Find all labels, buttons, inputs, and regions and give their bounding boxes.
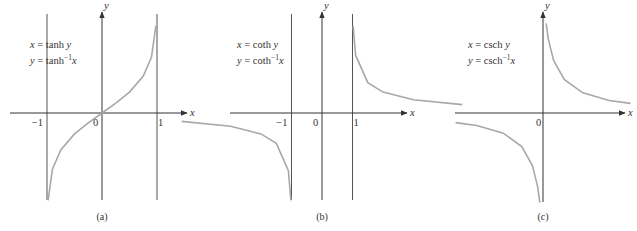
hyperbolic-inverse-figure: x y −101 x = tanh yy = tanh−1x (a) x y −…: [0, 0, 637, 231]
function-curve: [353, 26, 462, 105]
equation-label: x = coth y: [236, 39, 279, 50]
panel-caption: (c): [537, 211, 548, 223]
x-axis-label: x: [189, 107, 195, 118]
x-axis-label: x: [409, 107, 415, 118]
x-tick-label: 0: [313, 117, 318, 128]
equation-labels: x = coth yy = coth−1x: [236, 39, 284, 66]
y-axis-label: y: [544, 0, 550, 11]
function-curve: [546, 23, 630, 103]
y-axis-label: y: [103, 0, 109, 11]
panel-c: x y 0 x = csch yy = csch−1x (c): [455, 0, 633, 223]
equation-label: y = coth−1x: [236, 53, 284, 66]
panel-b: x y −101 x = coth yy = coth−1x (b): [182, 0, 463, 223]
equation-label: x = csch y: [467, 39, 510, 50]
function-curve: [456, 123, 540, 203]
tick-labels: −101: [276, 117, 358, 128]
y-axis-label: y: [323, 0, 329, 11]
equation-labels: x = tanh yy = tanh−1x: [29, 39, 77, 66]
function-curve: [182, 121, 291, 200]
panel-a: x y −101 x = tanh yy = tanh−1x (a): [10, 0, 195, 223]
x-axis-label: x: [627, 107, 633, 118]
x-tick-label: 1: [158, 117, 163, 128]
x-tick-label: 0: [93, 117, 98, 128]
x-tick-label: 0: [536, 117, 541, 128]
panel-caption: (b): [316, 211, 328, 223]
x-tick-label: −1: [276, 117, 287, 128]
x-tick-label: −1: [32, 117, 43, 128]
equation-label: y = tanh−1x: [29, 53, 77, 66]
tick-labels: 0: [536, 117, 541, 128]
equation-labels: x = csch yy = csch−1x: [467, 39, 516, 66]
tick-labels: −101: [32, 117, 163, 128]
x-tick-label: 1: [354, 117, 359, 128]
equation-label: x = tanh y: [29, 39, 72, 50]
equation-label: y = csch−1x: [467, 53, 516, 66]
panel-caption: (a): [96, 211, 107, 223]
